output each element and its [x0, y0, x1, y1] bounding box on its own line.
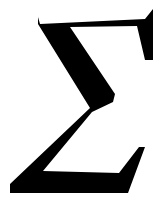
sigma-icon: [0, 0, 160, 204]
